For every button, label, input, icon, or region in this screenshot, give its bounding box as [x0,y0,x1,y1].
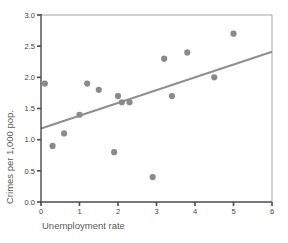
data-point [115,93,121,99]
data-point [119,99,125,105]
y-tick-label: 2.0 [25,73,35,82]
data-point [161,56,167,62]
trend-line [41,52,272,129]
y-axis-title: Crimes per 1,000 pop. [4,110,15,204]
data-point [150,174,156,180]
y-tick-label: 0.0 [25,198,35,207]
x-tick-label: 1 [77,207,81,216]
data-point [84,80,90,86]
scatter-plot-svg: 0.00.51.01.52.02.53.00123456 [0,0,288,243]
x-tick-label: 3 [154,207,158,216]
y-tick-label: 0.5 [25,167,35,176]
y-tick-label: 1.0 [25,135,35,144]
y-tick-label: 2.5 [25,42,35,51]
data-point [76,112,82,118]
data-point [184,49,190,55]
data-point [42,80,48,86]
scatter-chart-figure: 0.00.51.01.52.02.53.00123456 Crimes per … [0,0,288,243]
y-tick-label: 1.5 [25,104,35,113]
data-point [230,31,236,37]
data-point [49,143,55,149]
data-point [96,87,102,93]
x-tick-label: 4 [193,207,197,216]
x-tick-label: 0 [39,207,43,216]
x-tick-label: 6 [270,207,274,216]
x-tick-label: 5 [231,207,235,216]
data-point [61,130,67,136]
y-tick-label: 3.0 [25,11,35,20]
data-point [169,93,175,99]
data-point [111,149,117,155]
x-axis-title: Unemployment rate [42,220,125,231]
data-point [126,99,132,105]
x-tick-label: 2 [116,207,120,216]
data-point [211,74,217,80]
